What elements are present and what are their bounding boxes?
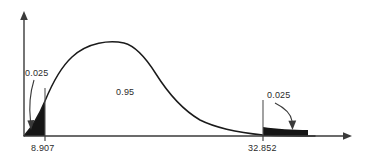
left-annotation-arrow-icon (30, 80, 34, 121)
upper-critical-value-tick-label: 32.852 (248, 143, 277, 153)
y-axis-arrowhead-icon (20, 11, 28, 20)
left-tail-area-label: 0.025 (25, 68, 49, 78)
right-annotation-arrow-icon (275, 103, 292, 121)
left-tail-shaded-region (24, 101, 45, 136)
chi-square-density-curve (24, 42, 315, 136)
central-area-label: 0.95 (116, 87, 134, 97)
right-annotation-arrowhead-icon (288, 120, 296, 130)
x-axis-arrowhead-icon (343, 132, 352, 140)
right-tail-area-label: 0.025 (267, 90, 291, 100)
distribution-plot (0, 0, 374, 167)
lower-critical-value-tick-label: 8.907 (31, 143, 55, 153)
chi-square-distribution-figure: 0.025 0.95 0.025 8.907 32.852 (0, 0, 374, 167)
